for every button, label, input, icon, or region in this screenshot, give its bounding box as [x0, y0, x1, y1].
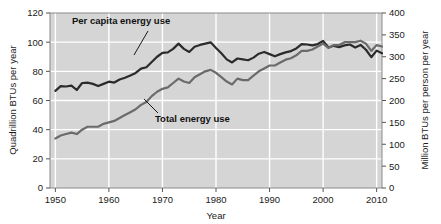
chart-canvas: 020406080100120 050100150200250300350400… — [0, 0, 441, 224]
x-axis-title: Year — [206, 210, 225, 221]
right-tick-label: 350 — [389, 29, 405, 40]
x-tick-label: 1990 — [259, 194, 280, 205]
left-tick-label: 60 — [32, 95, 43, 106]
x-tick-label: 2010 — [366, 194, 387, 205]
right-tick-label: 150 — [389, 117, 405, 128]
left-tick-label: 80 — [32, 66, 43, 77]
energy-use-chart-figure: 020406080100120 050100150200250300350400… — [0, 0, 441, 224]
left-tick-label: 0 — [38, 182, 43, 193]
total-series-label: Total energy use — [155, 113, 230, 124]
left-tick-label: 120 — [27, 7, 43, 18]
right-tick-label: 50 — [389, 161, 400, 172]
right-tick-label: 250 — [389, 73, 405, 84]
x-tick-label: 2000 — [313, 194, 334, 205]
x-tick-label: 1960 — [98, 194, 119, 205]
left-tick-label: 20 — [32, 153, 43, 164]
right-tick-label: 100 — [389, 139, 405, 150]
right-tick-label: 200 — [389, 95, 405, 106]
x-tick-label: 1980 — [205, 194, 226, 205]
left-axis-title: Quadrillion BTUs per year — [7, 45, 18, 154]
per-capita-series-label: Per capita energy use — [72, 15, 170, 26]
left-tick-label: 100 — [27, 37, 43, 48]
right-tick-label: 300 — [389, 51, 405, 62]
x-tick-label: 1970 — [152, 194, 173, 205]
left-tick-label: 40 — [32, 124, 43, 135]
right-tick-label: 400 — [389, 7, 405, 18]
x-tick-label: 1950 — [45, 194, 66, 205]
right-axis-title: Million BTUs per person per year — [419, 31, 430, 170]
right-tick-label: 0 — [389, 182, 394, 193]
